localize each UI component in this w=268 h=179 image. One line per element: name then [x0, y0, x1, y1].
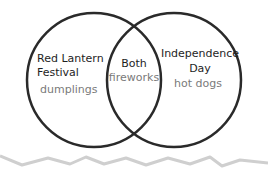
intersection-title: Both — [121, 57, 147, 71]
right-set-title-line-2: Day — [189, 62, 211, 76]
left-set-title-line-1: Red Lantern — [37, 52, 104, 66]
torn-edge-divider — [0, 156, 268, 166]
right-set-item: hot dogs — [174, 77, 222, 91]
left-set-title-line-2: Festival — [37, 66, 79, 80]
right-set-title-line-1: Independence — [161, 47, 239, 61]
intersection-item: fireworks — [109, 71, 159, 85]
left-set-item: dumplings — [40, 83, 97, 97]
